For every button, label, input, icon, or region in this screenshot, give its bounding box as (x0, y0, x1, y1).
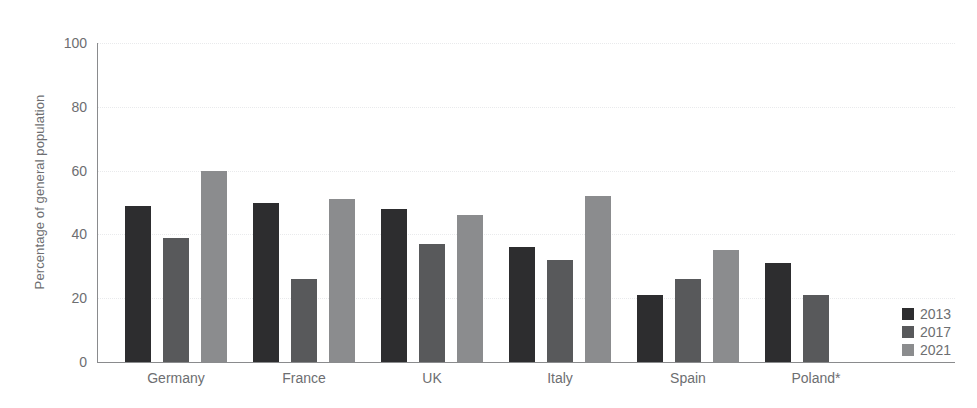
bar (329, 199, 355, 362)
bar-group (765, 43, 867, 362)
legend-swatch-icon (902, 344, 914, 356)
bar (201, 171, 227, 362)
bar (765, 263, 791, 362)
y-tick-label: 0 (49, 355, 87, 369)
bar-group (253, 43, 355, 362)
legend-label: 2021 (920, 343, 951, 357)
bar-group (125, 43, 227, 362)
legend-swatch-icon (902, 308, 914, 320)
bar (637, 295, 663, 362)
bar-group (509, 43, 611, 362)
bar (803, 295, 829, 362)
bar (163, 238, 189, 362)
bar (419, 244, 445, 362)
bar (125, 206, 151, 362)
legend: 201320172021 (902, 305, 972, 359)
plot-area: 020406080100 GermanyFranceUKItalySpainPo… (97, 43, 897, 362)
legend-item[interactable]: 2013 (902, 305, 972, 322)
y-axis-title: Percentage of general population (26, 12, 54, 372)
bar (675, 279, 701, 362)
bar (457, 215, 483, 362)
legend-item[interactable]: 2021 (902, 341, 972, 358)
bar (713, 250, 739, 362)
top-margin-strip (0, 0, 977, 6)
bar (509, 247, 535, 362)
legend-label: 2017 (920, 325, 951, 339)
bar (381, 209, 407, 362)
bar-group (381, 43, 483, 362)
x-axis-line (97, 362, 955, 363)
bar (547, 260, 573, 362)
x-axis-label: Poland* (736, 370, 896, 386)
bar-group (637, 43, 739, 362)
legend-swatch-icon (902, 326, 914, 338)
bar-chart: Percentage of general population 0204060… (0, 0, 977, 408)
y-tick-label: 20 (49, 291, 87, 305)
y-axis-line (97, 43, 98, 362)
y-tick-label: 60 (49, 164, 87, 178)
bar (253, 203, 279, 363)
legend-label: 2013 (920, 307, 951, 321)
bar (585, 196, 611, 362)
bar (291, 279, 317, 362)
y-tick-label: 100 (49, 36, 87, 50)
y-tick-label: 40 (49, 227, 87, 241)
y-tick-label: 80 (49, 100, 87, 114)
legend-item[interactable]: 2017 (902, 323, 972, 340)
